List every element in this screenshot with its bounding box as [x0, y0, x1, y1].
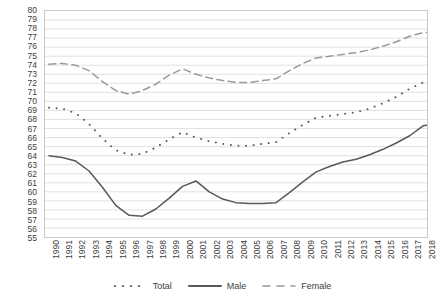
x-axis-tick-label: 2003	[226, 240, 235, 259]
chart-container: 8079787776757473727170696867666564636261…	[0, 0, 445, 298]
legend-swatch-male	[188, 281, 222, 291]
x-axis-tick-label: 2016	[401, 240, 410, 259]
legend-item-female[interactable]: Female	[262, 281, 331, 291]
x-axis-tick-label: 2009	[307, 240, 316, 259]
x-axis-tick-label: 1999	[172, 240, 181, 259]
legend-item-male[interactable]: Male	[188, 281, 247, 291]
legend-swatch-female	[262, 281, 296, 291]
x-axis-tick-label: 2012	[347, 240, 356, 259]
legend-label: Female	[301, 282, 331, 291]
x-axis-tick-label: 2011	[334, 240, 343, 258]
legend-swatch-total	[114, 281, 148, 291]
series-line-total	[49, 77, 427, 155]
legend-item-total[interactable]: Total	[114, 281, 172, 291]
x-axis-tick-label: 2007	[280, 240, 289, 259]
x-axis-tick-label: 2017	[414, 240, 423, 259]
y-axis: 8079787776757473727170696867666564636261…	[0, 10, 40, 238]
series-line-male	[49, 124, 427, 216]
x-axis-tick-label: 1995	[119, 240, 128, 259]
x-axis-tick-label: 2002	[213, 240, 222, 259]
x-axis: 1990199119921993199419951996199719981999…	[44, 240, 428, 280]
x-axis-tick-label: 1990	[52, 240, 61, 259]
x-axis-tick-label: 2004	[240, 240, 249, 259]
series-line-female	[49, 32, 427, 94]
x-axis-tick-label: 1993	[92, 240, 101, 259]
legend-label: Total	[153, 282, 172, 291]
x-axis-tick-label: 2018	[428, 240, 437, 259]
x-axis-tick-label: 1992	[78, 240, 87, 259]
y-axis-tick-label: 55	[28, 234, 37, 243]
legend-label: Male	[227, 282, 247, 291]
x-axis-tick-label: 1996	[132, 240, 141, 259]
x-axis-tick-label: 1997	[146, 240, 155, 259]
x-axis-tick-label: 2010	[320, 240, 329, 259]
x-axis-tick-label: 2005	[253, 240, 262, 259]
x-axis-tick-label: 2014	[374, 240, 383, 259]
x-axis-tick-label: 1998	[159, 240, 168, 259]
chart-legend: TotalMaleFemale	[0, 277, 445, 295]
x-axis-tick-label: 2015	[387, 240, 396, 259]
plot-area	[44, 10, 428, 238]
x-axis-tick-label: 1991	[65, 240, 74, 259]
x-axis-tick-label: 2006	[266, 240, 275, 259]
x-axis-tick-label: 1994	[105, 240, 114, 259]
x-axis-tick-label: 2000	[186, 240, 195, 259]
x-axis-tick-label: 2008	[293, 240, 302, 259]
series-layer	[45, 11, 427, 237]
x-axis-tick-label: 2001	[199, 240, 208, 259]
x-axis-tick-label: 2013	[360, 240, 369, 259]
